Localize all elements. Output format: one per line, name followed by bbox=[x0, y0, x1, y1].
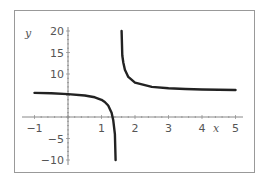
y-tick-label: 15 bbox=[50, 47, 64, 60]
x-tick-label: 2 bbox=[132, 122, 139, 135]
x-axis-label: x bbox=[213, 122, 220, 135]
x-tick-label: 4 bbox=[199, 122, 206, 135]
x-tick-label: 1 bbox=[98, 122, 105, 135]
function-plot: −112345201510−5−10 y x bbox=[0, 0, 266, 190]
y-tick-label: 10 bbox=[50, 68, 64, 81]
x-tick-label: 5 bbox=[232, 122, 239, 135]
y-tick-label: 20 bbox=[50, 25, 64, 38]
y-tick-label: −10 bbox=[41, 154, 64, 167]
x-tick-label: 3 bbox=[165, 122, 172, 135]
y-axis-label: y bbox=[24, 27, 32, 40]
y-tick-label: −5 bbox=[48, 133, 64, 146]
x-tick-label: −1 bbox=[26, 122, 42, 135]
